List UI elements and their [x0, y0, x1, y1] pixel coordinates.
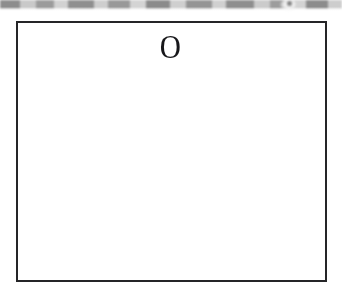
bordered-content-box[interactable]: O	[16, 21, 327, 282]
toolbar-bottom-fade	[0, 0, 342, 13]
glyph-container: O	[18, 23, 325, 62]
letter-o-glyph: O	[160, 32, 181, 62]
